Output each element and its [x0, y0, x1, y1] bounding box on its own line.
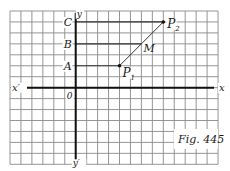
x-label: x — [219, 82, 225, 93]
x-neg-label: x′ — [12, 82, 21, 93]
origin-label: 0 — [67, 91, 73, 101]
point-p2 — [162, 20, 166, 24]
caption: Fig. 445 — [174, 129, 224, 149]
label-m: M — [142, 42, 155, 55]
axis-mark-a: A — [63, 60, 72, 73]
label-p2-sub: 2 — [174, 25, 180, 33]
axis-mark-b: B — [63, 38, 72, 51]
point-p1 — [118, 64, 122, 68]
figure-caption: Fig. 445 — [177, 133, 224, 146]
label-p1-sub: 1 — [131, 74, 135, 82]
y-neg-label: y′ — [72, 158, 80, 168]
y-label: y — [76, 9, 83, 19]
axis-mark-c: C — [64, 16, 73, 29]
coordinate-diagram: x′xyy′0ABCP1P2M Fig. 445 — [0, 0, 230, 171]
